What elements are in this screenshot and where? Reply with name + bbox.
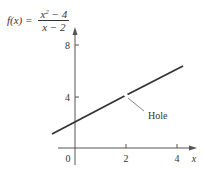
- y-axis-arrow-icon: [73, 27, 78, 35]
- x-tick-label-2: 2: [124, 153, 129, 164]
- x-tick-label-4: 4: [175, 153, 180, 164]
- hole-leader-line: [128, 98, 144, 111]
- y-tick-label-8: 8: [65, 40, 70, 51]
- function-line-right: [128, 66, 184, 95]
- x-axis-label: x: [191, 153, 197, 164]
- x-axis-arrow-icon: [189, 146, 197, 151]
- origin-label: 0: [66, 153, 71, 164]
- y-tick-label-4: 4: [65, 92, 70, 103]
- hole-marker: [125, 94, 128, 97]
- function-graph: 8 4 2 4 0 x Hole: [0, 0, 204, 169]
- function-line-left: [52, 96, 125, 134]
- hole-label: Hole: [148, 110, 168, 121]
